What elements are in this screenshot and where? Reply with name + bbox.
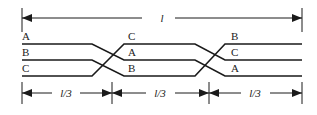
label-s1-mid: B bbox=[22, 46, 29, 58]
label-s2-bot: B bbox=[128, 62, 135, 74]
section-1-labels: A B C bbox=[22, 30, 30, 74]
section-3-labels: B C A bbox=[231, 30, 239, 74]
segment-2-label: l/3 bbox=[154, 87, 166, 99]
label-s2-mid: A bbox=[128, 46, 136, 58]
label-s1-bot: C bbox=[22, 62, 29, 74]
segment-dimensions: l/3 l/3 l/3 bbox=[22, 82, 302, 104]
transposition-diagram: l A B C C A B B C A l/3 l/ bbox=[0, 0, 317, 115]
segment-3-label: l/3 bbox=[249, 87, 261, 99]
total-length-label: l bbox=[160, 12, 163, 24]
total-length-dimension: l bbox=[22, 8, 302, 32]
label-s3-bot: A bbox=[231, 62, 239, 74]
label-s1-top: A bbox=[22, 30, 30, 42]
conductors bbox=[22, 44, 302, 76]
label-s3-top: B bbox=[231, 30, 238, 42]
label-s2-top: C bbox=[128, 30, 135, 42]
section-2-labels: C A B bbox=[128, 30, 136, 74]
label-s3-mid: C bbox=[231, 46, 238, 58]
segment-1-label: l/3 bbox=[60, 87, 72, 99]
